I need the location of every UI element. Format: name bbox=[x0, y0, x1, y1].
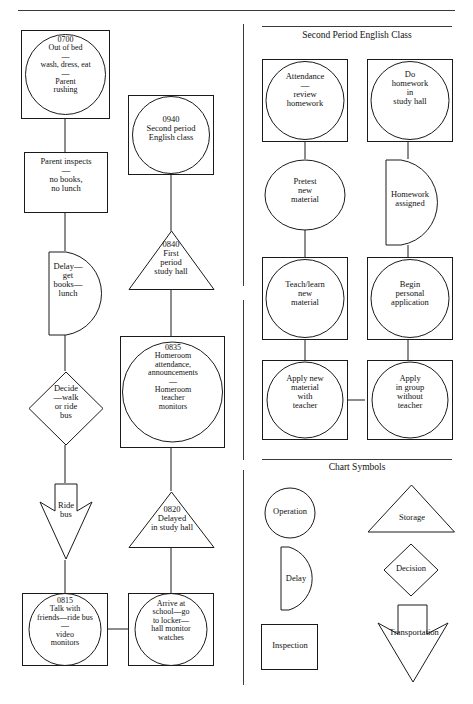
node-0940-label: 0940 Second period English class bbox=[124, 115, 218, 142]
node-begin-application-label: Begin personal application bbox=[363, 280, 457, 307]
flowchart-page: 0700 Out of bed — wash, dress, eat — Par… bbox=[0, 0, 473, 704]
node-0835-label: 0835 Homeroom attendance, announcements … bbox=[118, 344, 228, 411]
legend-transportation-icon bbox=[376, 604, 450, 684]
legend-delay-label: Delay bbox=[272, 574, 320, 583]
node-pretest-label: Pretest new material bbox=[262, 177, 348, 204]
legend-storage-icon bbox=[367, 484, 456, 534]
node-homework-assigned-label: Homework assigned bbox=[378, 190, 442, 208]
legend-decision-label: Decision bbox=[383, 564, 439, 573]
legend-operation-label: Operation bbox=[258, 507, 322, 516]
node-do-homework-label: Do homework in study hall bbox=[363, 70, 457, 106]
node-0820-label: 0820 Delayed in study hall bbox=[130, 505, 214, 532]
node-0840-label: 0840 First period study hall bbox=[142, 240, 200, 276]
node-teach-learn-label: Teach/learn new material bbox=[258, 280, 352, 307]
node-apply-with-teacher-label: Apply new material with teacher bbox=[258, 374, 352, 410]
legend-transportation-label: Transportation bbox=[368, 628, 460, 637]
legend-inspection-label: Inspection bbox=[256, 641, 324, 650]
node-attendance-label: Attendance — review homework bbox=[258, 72, 352, 108]
node-arrive-school-label: Arrive at school—go to locker— hall moni… bbox=[126, 600, 216, 642]
node-apply-group-label: Apply in group without teacher bbox=[363, 374, 457, 410]
legend-title-rule bbox=[262, 459, 452, 460]
legend-title: Chart Symbols bbox=[277, 463, 437, 473]
legend-storage-label: Storage bbox=[380, 513, 444, 522]
